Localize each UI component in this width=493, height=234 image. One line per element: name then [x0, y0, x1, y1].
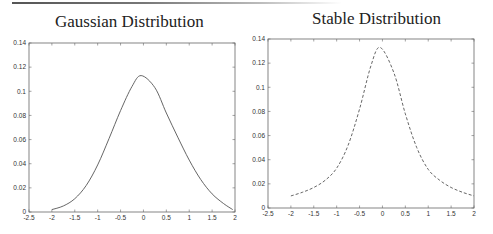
x-tick-label: -2 [49, 214, 55, 221]
plot-frame [29, 43, 235, 212]
x-tick-label: 1.5 [447, 210, 456, 217]
y-tick-label: 0.06 [13, 136, 26, 143]
x-tick-label: -1.5 [69, 214, 81, 221]
y-tick-label: 0.14 [13, 39, 26, 46]
y-tick-label: 0 [261, 204, 265, 211]
x-tick-label: 1 [187, 214, 191, 221]
charts-canvas: -2.5-2-1.5-1-0.500.511.5200.020.040.060.… [0, 0, 493, 234]
x-tick-label: 1.5 [208, 214, 217, 221]
stable-plot: -2.5-2-1.5-1-0.500.511.5200.020.040.060.… [252, 35, 476, 217]
y-tick-label: 0.04 [252, 156, 265, 163]
y-tick-label: 0.12 [252, 59, 265, 66]
y-tick-label: 0.04 [13, 160, 26, 167]
y-tick-label: 0 [22, 208, 26, 215]
x-tick-label: -1.5 [308, 210, 320, 217]
y-tick-label: 0.02 [13, 184, 26, 191]
x-tick-label: 0.5 [162, 214, 171, 221]
x-tick-label: 0.5 [401, 210, 410, 217]
y-tick-label: 0.14 [252, 35, 265, 42]
x-tick-label: -1 [334, 210, 340, 217]
y-tick-label: 0.1 [256, 84, 265, 91]
gaussian-plot: -2.5-2-1.5-1-0.500.511.5200.020.040.060.… [13, 39, 237, 221]
x-tick-label: -1 [95, 214, 101, 221]
x-tick-label: -2 [288, 210, 294, 217]
stable-curve [291, 47, 474, 196]
y-tick-label: 0.08 [13, 112, 26, 119]
x-tick-label: -0.5 [115, 214, 127, 221]
gaussian-curve [52, 76, 233, 210]
x-tick-label: 0 [142, 214, 146, 221]
x-tick-label: 0 [381, 210, 385, 217]
y-tick-label: 0.1 [17, 88, 26, 95]
y-tick-label: 0.06 [252, 132, 265, 139]
x-tick-label: 2 [472, 210, 476, 217]
y-tick-label: 0.02 [252, 180, 265, 187]
x-tick-label: 2 [233, 214, 237, 221]
y-tick-label: 0.08 [252, 108, 265, 115]
y-tick-label: 0.12 [13, 63, 26, 70]
x-tick-label: -0.5 [354, 210, 366, 217]
x-tick-label: 1 [426, 210, 430, 217]
